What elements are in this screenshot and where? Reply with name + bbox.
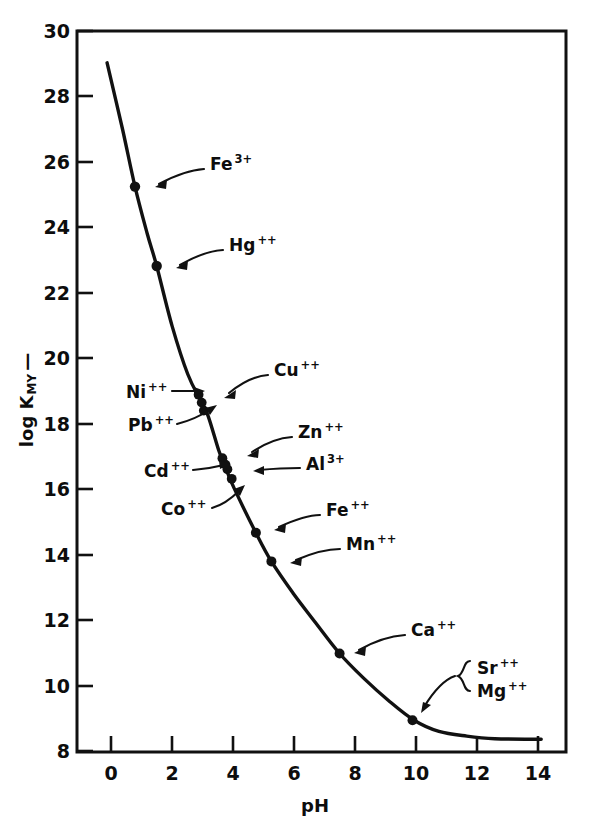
data-point-sr-mg[interactable] — [408, 715, 418, 725]
data-point-fe2[interactable] — [251, 528, 261, 538]
annotation-mg-base: Mg — [477, 681, 506, 701]
chart-figure: 30 28 26 24 22 20 18 16 14 12 10 8 0 2 4… — [0, 0, 600, 822]
annotation-mn-base: Mn — [346, 534, 375, 554]
y-tick-label-28: 28 — [44, 85, 70, 107]
annotation-co-sup: ++ — [187, 497, 206, 511]
x-tick-label-8: 8 — [348, 762, 361, 784]
annotation-ca-base: Ca — [411, 620, 435, 640]
chart-background — [0, 0, 600, 822]
annotation-sr-base: Sr — [477, 658, 498, 678]
y-tick-label-18: 18 — [44, 413, 70, 435]
y-axis-title: log KMY— — [16, 353, 39, 447]
y-axis-title-sub: MY — [25, 374, 39, 395]
data-point-ca[interactable] — [335, 649, 345, 659]
annotation-mg-sup: ++ — [508, 679, 527, 693]
y-axis-title-text: log KMY— — [16, 353, 39, 447]
y-tick-label-30: 30 — [44, 20, 70, 42]
annotation-pb-sup: ++ — [155, 413, 174, 427]
annotation-ni-base: Ni — [126, 382, 146, 402]
y-tick-label-10: 10 — [44, 675, 70, 697]
data-point-hg[interactable] — [152, 261, 162, 271]
annotation-ni-sup: ++ — [148, 380, 167, 394]
y-axis-title-tail: — — [16, 353, 37, 371]
annotation-al-base: Al — [306, 454, 325, 474]
annotation-ca-sup: ++ — [437, 618, 456, 632]
annotation-sr-sup: ++ — [500, 656, 519, 670]
annotation-cu-base: Cu — [274, 360, 299, 380]
annotation-cd-sup: ++ — [171, 459, 190, 473]
x-tick-label-14: 14 — [525, 762, 551, 784]
y-tick-label-14: 14 — [44, 544, 70, 566]
y-axis-title-main: log K — [16, 394, 37, 447]
x-tick-label-2: 2 — [165, 762, 178, 784]
annotation-zn-base: Zn — [298, 422, 322, 442]
y-tick-label-12: 12 — [44, 609, 70, 631]
x-tick-label-12: 12 — [464, 762, 490, 784]
y-tick-label-22: 22 — [44, 282, 70, 304]
x-tick-label-0: 0 — [104, 762, 117, 784]
x-tick-label-10: 10 — [403, 762, 429, 784]
y-tick-label-16: 16 — [44, 478, 70, 500]
x-tick-label-6: 6 — [287, 762, 300, 784]
x-axis-title: pH — [301, 795, 329, 816]
annotation-fe3-sup: 3+ — [234, 152, 252, 166]
y-tick-label-24: 24 — [44, 216, 70, 238]
annotation-cd-base: Cd — [144, 461, 169, 481]
y-tick-label-20: 20 — [44, 347, 70, 369]
annotation-fe2-base: Fe — [326, 500, 348, 520]
annotation-pb-base: Pb — [128, 415, 153, 435]
annotation-al-sup: 3+ — [327, 452, 345, 466]
y-tick-label-8: 8 — [57, 740, 70, 762]
annotation-mn-sup: ++ — [377, 532, 396, 546]
annotation-fe3-base: Fe — [210, 154, 232, 174]
annotation-cu-sup: ++ — [301, 358, 320, 372]
data-point-mn[interactable] — [266, 556, 276, 566]
ph-vs-logk-chart: 30 28 26 24 22 20 18 16 14 12 10 8 0 2 4… — [0, 0, 600, 822]
annotation-hg-base: Hg — [229, 235, 255, 255]
x-tick-label-4: 4 — [226, 762, 239, 784]
annotation-hg-sup: ++ — [257, 233, 276, 247]
data-point-fe3[interactable] — [130, 181, 140, 191]
data-point-co[interactable] — [227, 474, 237, 484]
annotation-fe2-sup: ++ — [350, 498, 369, 512]
annotation-co-base: Co — [161, 499, 185, 519]
annotation-zn-sup: ++ — [324, 420, 343, 434]
y-tick-label-26: 26 — [44, 151, 70, 173]
